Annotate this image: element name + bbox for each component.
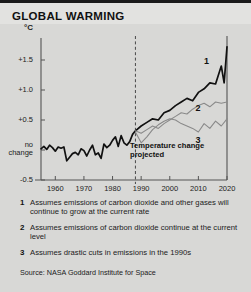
x-tick-label-1: 1970 [70,184,98,193]
footnote-text-1: Assumes emissions of carbon dioxide and … [30,198,229,216]
title-band: GLOBAL WARMING [0,0,251,24]
x-tick-label-2: 1980 [99,184,127,193]
y-tick-label-4: +1.5 [0,56,33,64]
footnote-number-2: 2 [20,223,24,232]
footnote-1: 1Assumes emissions of carbon dioxide and… [0,198,245,217]
x-tick-label-3: 1990 [127,184,155,193]
projection-annotation: Temperature change projected [130,141,225,159]
y-tick-label-2: +0.5 [0,116,33,124]
series-line-2 [135,102,227,133]
plot-area: -0.5nochange+0.5+1.0+1.5°C 1960197019801… [0,24,251,196]
footnote-number-1: 1 [20,198,24,207]
series-label-1: 1 [204,56,209,66]
y-axis-unit-label: °C [0,24,33,32]
x-tick-label-6: 2020 [213,184,241,193]
footnote-number-3: 3 [20,248,24,257]
x-tick-label-5: 2010 [184,184,212,193]
footnote-3: 3Assumes drastic cuts in emissions in th… [0,248,245,257]
page-title: GLOBAL WARMING [12,10,125,22]
series-label-2: 2 [196,103,201,113]
footnote-text-2: Assumes emissions of carbon dioxide cont… [30,223,237,241]
footnote-text-3: Assumes drastic cuts in emissions in the… [30,248,191,257]
y-tick-label-1: nochange [0,141,33,157]
y-tick-label-0: -0.5 [0,176,33,184]
x-tick-label-0: 1960 [41,184,69,193]
footnotes-list: 1Assumes emissions of carbon dioxide and… [0,198,251,263]
global-warming-chart-figure: GLOBAL WARMING -0.5nochange+0.5+1.0+1.5°… [0,0,251,292]
y-tick-label-3: +1.0 [0,86,33,94]
x-tick-label-4: 2000 [156,184,184,193]
series-line-3 [135,119,227,143]
source-caption: Source: NASA Goddard Institute for Space [20,268,156,277]
chart-canvas [0,24,251,196]
footnote-2: 2Assumes emissions of carbon dioxide con… [0,223,245,242]
